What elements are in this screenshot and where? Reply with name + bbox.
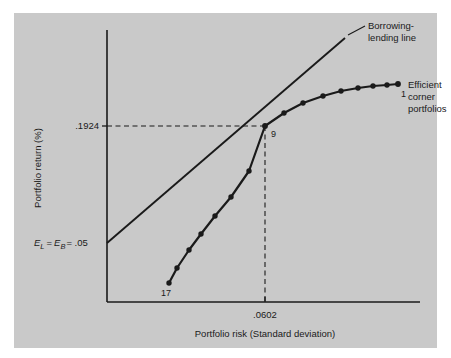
y-tick-label-1924: .1924 [75, 120, 99, 131]
curve-marker [281, 110, 286, 115]
curve-marker-tangency [262, 123, 268, 129]
curve-marker [228, 194, 233, 199]
point-label-9: 9 [271, 129, 276, 139]
curve-marker [186, 247, 191, 252]
curve-marker [300, 100, 305, 105]
curve-marker [246, 168, 251, 173]
borrowing-lending-line [107, 38, 345, 243]
curve-marker [355, 85, 360, 90]
x-axis-title: Portfolio risk (Standard deviation) [195, 328, 335, 339]
curve-marker [174, 265, 179, 270]
eqn-equals-1: = [47, 237, 53, 248]
curve-marker [370, 83, 375, 88]
borrowing-lending-leader-line [348, 26, 365, 35]
risk-free-rate-equation: EL=EB= .05 [34, 237, 88, 251]
curve-marker-endpoint [395, 81, 401, 87]
eqn-subscript-B: B [60, 242, 65, 251]
eqn-value: = .05 [66, 237, 87, 248]
efficient-frontier-markers [166, 81, 401, 286]
svg-text:EL=EB= .05: EL=EB= .05 [34, 237, 88, 251]
borrowing-lending-label-line1: Borrowing- [368, 20, 414, 31]
curve-marker [338, 88, 343, 93]
point-label-17: 17 [161, 288, 171, 298]
y-axis-title: Portfolio return (%) [32, 128, 43, 208]
efficient-corner-label-line1: Efficient [408, 79, 442, 90]
curve-marker [320, 93, 325, 98]
chart-svg: .1924 .0602 Portfolio risk (Standard dev… [0, 0, 451, 358]
efficient-corner-label-line3: portfolios [408, 103, 447, 114]
borrowing-lending-label-line2: lending line [368, 32, 416, 43]
efficient-corner-label-line2: corner [408, 91, 435, 102]
figure-container: .1924 .0602 Portfolio risk (Standard dev… [0, 0, 451, 358]
curve-marker [212, 213, 217, 218]
curve-marker [198, 231, 203, 236]
point-label-1: 1 [401, 89, 406, 99]
curve-marker [166, 280, 171, 285]
curve-marker [384, 82, 389, 87]
eqn-subscript-L: L [40, 242, 44, 251]
x-tick-label-0602: .0602 [253, 309, 277, 320]
